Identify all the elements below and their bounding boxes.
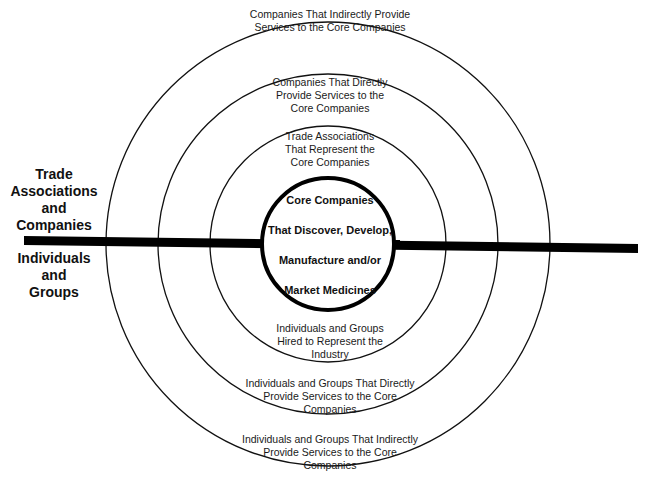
label-inner-top: Trade Associations That Represent the Co… xyxy=(285,130,375,169)
label-line: Provide Services to the Core xyxy=(245,390,414,403)
side-line: Groups xyxy=(17,284,90,301)
label-outer-top: Companies That Indirectly Provide Servic… xyxy=(250,8,410,34)
label-inner-bottom: Individuals and Groups Hired to Represen… xyxy=(276,322,383,361)
label-line: Provide Services to the xyxy=(273,89,388,102)
label-line: Companies xyxy=(242,459,418,472)
label-line: Companies xyxy=(245,403,414,416)
side-line: and xyxy=(10,200,97,217)
side-line: Companies xyxy=(10,217,97,234)
label-line: Individuals and Groups That Directly xyxy=(245,377,414,390)
side-line: and xyxy=(17,267,90,284)
label-line: Hired to Represent the xyxy=(276,335,383,348)
side-line: Trade xyxy=(10,166,97,183)
side-line: Individuals xyxy=(17,250,90,267)
label-line: Services to the Core Companies xyxy=(250,21,410,34)
label-line: Trade Associations xyxy=(285,130,375,143)
core-line: Market Medicines xyxy=(268,275,392,305)
side-label-top: Trade Associations and Companies xyxy=(10,166,97,234)
label-line: Industry xyxy=(276,348,383,361)
core-line: Manufacture and/or xyxy=(268,245,392,275)
label-line: Individuals and Groups xyxy=(276,322,383,335)
core-line: That Discover, Develop, xyxy=(268,215,392,245)
label-line: Companies That Directly xyxy=(273,76,388,89)
label-line: That Represent the xyxy=(285,143,375,156)
label-line: Core Companies xyxy=(273,102,388,115)
side-label-bottom: Individuals and Groups xyxy=(17,250,90,301)
core-label: Core Companies That Discover, Develop, M… xyxy=(268,185,392,305)
label-line: Companies That Indirectly Provide xyxy=(250,8,410,21)
label-line: Provide Services to the Core xyxy=(242,446,418,459)
side-line: Associations xyxy=(10,183,97,200)
core-line: Core Companies xyxy=(268,185,392,215)
label-line: Individuals and Groups That Indirectly xyxy=(242,433,418,446)
label-middle-bottom: Individuals and Groups That Directly Pro… xyxy=(245,377,414,416)
label-middle-top: Companies That Directly Provide Services… xyxy=(273,76,388,115)
label-outer-bottom: Individuals and Groups That Indirectly P… xyxy=(242,433,418,472)
label-line: Core Companies xyxy=(285,156,375,169)
